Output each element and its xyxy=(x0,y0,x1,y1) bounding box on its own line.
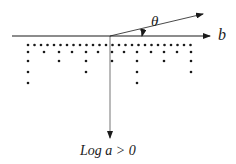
lattice-dot xyxy=(190,51,193,54)
lattice-dot xyxy=(136,71,139,74)
lattice-dot xyxy=(97,51,100,54)
lattice-dot xyxy=(176,44,179,47)
lattice-dot xyxy=(170,44,173,47)
lattice-dot xyxy=(33,44,36,47)
lattice-dot xyxy=(136,51,139,54)
lattice-dot xyxy=(176,51,179,54)
lattice-dot xyxy=(66,44,69,47)
theta-angle-arc xyxy=(140,29,142,36)
lattice-dot xyxy=(27,71,30,74)
lattice-dot xyxy=(53,44,56,47)
lattice-dot xyxy=(163,51,166,54)
lattice-dot xyxy=(190,60,193,63)
lattice-dot xyxy=(105,44,108,47)
lattice-dot xyxy=(111,44,114,47)
lattice-dot xyxy=(118,44,121,47)
lattice-dot xyxy=(111,60,114,63)
lattice-dot xyxy=(27,51,30,54)
lattice-dot xyxy=(163,60,166,63)
lattice-dot xyxy=(123,51,126,54)
lattice-dot xyxy=(59,44,62,47)
lattice-dot xyxy=(137,44,140,47)
lattice-dot xyxy=(144,44,147,47)
lattice-dot xyxy=(27,44,30,47)
b-label: b xyxy=(218,26,226,43)
lattice-dots xyxy=(27,44,193,85)
lattice-dot xyxy=(27,60,30,63)
lattice-dot xyxy=(43,51,46,54)
lattice-dot xyxy=(85,51,88,54)
lattice-dot xyxy=(190,71,193,74)
lattice-dot xyxy=(85,60,88,63)
lattice-dot xyxy=(40,44,43,47)
lattice-dot xyxy=(92,44,95,47)
lattice-dot xyxy=(85,71,88,74)
lattice-dot xyxy=(58,60,61,63)
lattice-dot xyxy=(131,44,134,47)
lattice-dot xyxy=(163,44,166,47)
lattice-dot xyxy=(58,51,61,54)
lattice-dot xyxy=(189,44,192,47)
lattice-dot xyxy=(150,44,153,47)
lattice-dot xyxy=(85,44,88,47)
lattice-dot xyxy=(136,60,139,63)
lattice-dot xyxy=(27,82,30,85)
lattice-dot xyxy=(183,44,186,47)
lattice-dot xyxy=(98,44,101,47)
diagram-canvas: θ b Log a > 0 xyxy=(0,0,236,164)
lattice-dot xyxy=(46,44,49,47)
lattice-dot xyxy=(124,44,127,47)
lattice-dot xyxy=(111,51,114,54)
theta-label: θ xyxy=(151,13,159,29)
lattice-dot xyxy=(136,82,139,85)
lattice-dot xyxy=(79,44,82,47)
lattice-dot xyxy=(71,51,74,54)
log-a-label: Log a > 0 xyxy=(79,143,136,158)
lattice-dot xyxy=(150,51,153,54)
lattice-dot xyxy=(72,44,75,47)
lattice-dot xyxy=(157,44,160,47)
